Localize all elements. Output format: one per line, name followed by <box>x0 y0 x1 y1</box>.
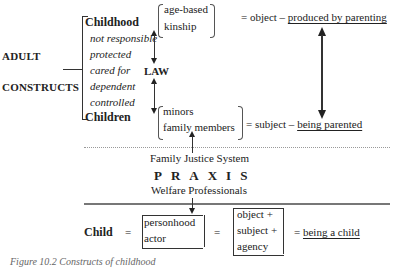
bracket-item: agency <box>237 240 268 252</box>
childhood-heading: Childhood <box>85 15 139 30</box>
attribute-item: not responsible <box>90 32 157 44</box>
result-text: being a child <box>303 226 360 238</box>
group-item: family members <box>163 121 235 133</box>
praxis-title: PRAXIS <box>154 168 256 184</box>
constructs-label: CONSTRUCTS <box>2 81 79 93</box>
arrow-down-icon <box>151 108 157 114</box>
law-label: LAW <box>144 65 169 77</box>
group-item: minors <box>163 105 194 117</box>
attribute-item: cared for <box>90 64 130 76</box>
attribute-item: controlled <box>90 96 135 108</box>
bracket-item: subject + <box>237 224 277 236</box>
object-equals: = object – <box>241 11 285 23</box>
double-arrow-line <box>321 35 323 111</box>
family-justice-label: Family Justice System <box>150 152 249 164</box>
right-brace-icon <box>210 4 215 38</box>
bracket-item: object + <box>237 208 273 220</box>
children-heading: Children <box>85 110 131 125</box>
connector-line <box>63 69 82 70</box>
subject-equation: = subject – being parented <box>246 118 362 130</box>
adult-label: ADULT <box>2 50 41 62</box>
arrow-down-icon <box>151 58 157 64</box>
result-equation: = being a child <box>294 226 360 238</box>
attribute-item: protected <box>90 48 131 60</box>
bracket-item: personhood <box>144 216 195 228</box>
arrow-down-icon <box>189 208 195 214</box>
object-equation: = object – produced by parenting <box>241 11 387 23</box>
constructs-bracket <box>82 16 83 120</box>
subject-result: being parented <box>297 118 362 130</box>
figure-caption: Figure 10.2 Constructs of childhood <box>10 256 155 267</box>
bracket-item: actor <box>144 232 166 244</box>
praxis-arrow-line-top <box>192 136 193 153</box>
dotted-divider <box>84 147 390 148</box>
object-result: produced by parenting <box>288 11 387 23</box>
group-item: age-based <box>164 3 208 15</box>
equals-sign: = <box>214 226 220 238</box>
subject-equals: = subject – <box>246 118 294 130</box>
law-arrow-line-bottom <box>154 83 155 109</box>
equals-sign: = <box>125 226 131 238</box>
result-equals: = <box>294 226 300 238</box>
child-term: Child <box>84 225 113 240</box>
right-brace-icon <box>238 106 243 140</box>
welfare-professionals-label: Welfare Professionals <box>151 184 247 196</box>
group-item: kinship <box>164 20 196 32</box>
attribute-item: dependent <box>90 80 135 92</box>
solid-divider <box>84 203 390 205</box>
law-arrow-line-top <box>154 35 155 59</box>
left-brace-icon <box>158 4 163 38</box>
